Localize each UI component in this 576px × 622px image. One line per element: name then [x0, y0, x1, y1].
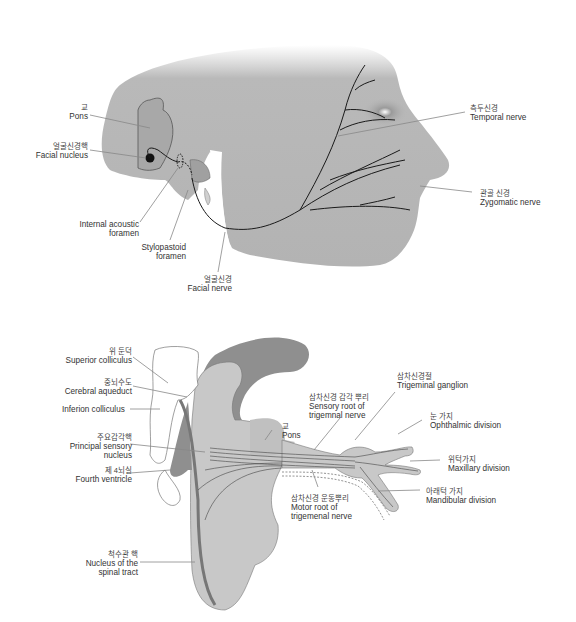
label-sensory-root: 삼차신경 감각 뿌리 Sensory root of trigemnal ner…: [309, 393, 369, 420]
label-temporal-nerve: 측두신경 Temporal nerve: [470, 104, 526, 122]
label-zygomatic-nerve: 관골 신경 Zygomatic nerve: [480, 189, 541, 207]
anatomy-illustration: [0, 0, 576, 622]
label-facial-nucleus: 얼굴신경핵 Facial nucleus: [20, 142, 88, 160]
brainstem-illustration: [150, 338, 421, 610]
label-superior-colliculus: 위 둔덕 Superior colliculus: [40, 347, 132, 365]
label-inferior-colliculus: Inferion colliculus: [62, 405, 125, 414]
label-mandibular-division: 아래턱 가지 Mandibular division: [426, 487, 496, 505]
label-ophthalmic-division: 눈 가지 Ophthalmic division: [430, 412, 501, 430]
label-maxillary-division: 위턱가지 Maxillary division: [448, 455, 510, 473]
head-silhouette: [102, 45, 449, 267]
label-facial-nerve: 얼굴신경 Facial nerve: [170, 275, 232, 293]
label-principal-sensory-nucleus: 주요감각핵 Principal sensory nucleus: [40, 433, 132, 460]
label-motor-root: 삼차신경 운동뿌리 Motor root of trigemenal nerve: [291, 494, 352, 521]
label-stylomastoid-foramen: Stylopastoid foramen: [120, 243, 186, 261]
label-fourth-ventricle: 제 4뇌실 Fourth ventricle: [40, 466, 132, 484]
label-internal-acoustic-foramen: Internal acoustic foramen: [55, 220, 139, 238]
label-spinal-tract-nucleus: 척수관 핵 Nucleus of the spinal tract: [40, 550, 138, 577]
label-trigeminal-ganglion: 삼차신경절 Trigeminal ganglion: [397, 372, 468, 390]
label-pons-bottom: 교 Pons: [282, 422, 301, 440]
label-cerebral-aqueduct: 중뇌수도 Cerebral aqueduct: [40, 378, 132, 396]
label-pons-top: 교 Pons: [40, 103, 88, 121]
